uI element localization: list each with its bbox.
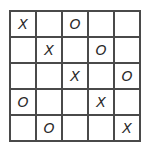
cell-r3-c4 (115, 90, 141, 116)
cell-r4-c4: X (115, 116, 141, 142)
cell-r0-c3 (89, 12, 115, 38)
cell-r1-c4 (115, 38, 141, 64)
cell-r4-c3 (89, 116, 115, 142)
cell-r1-c2 (63, 38, 89, 64)
cell-r4-c1: O (37, 116, 63, 142)
cell-r0-c0: X (11, 12, 37, 38)
cell-r3-c0: O (11, 90, 37, 116)
cell-r2-c4: O (115, 64, 141, 90)
cell-r0-c4 (115, 12, 141, 38)
tic-tac-toe-board: X O X O X O O X O X (9, 10, 141, 142)
cell-r1-c1: X (37, 38, 63, 64)
cell-r1-c3: O (89, 38, 115, 64)
cell-r3-c3: X (89, 90, 115, 116)
cell-r2-c3 (89, 64, 115, 90)
cell-r4-c2 (63, 116, 89, 142)
cell-r4-c0 (11, 116, 37, 142)
cell-r1-c0 (11, 38, 37, 64)
cell-r0-c1 (37, 12, 63, 38)
cell-r2-c2: X (63, 64, 89, 90)
cell-r2-c1 (37, 64, 63, 90)
cell-r3-c2 (63, 90, 89, 116)
cell-r0-c2: O (63, 12, 89, 38)
cell-r3-c1 (37, 90, 63, 116)
cell-r2-c0 (11, 64, 37, 90)
